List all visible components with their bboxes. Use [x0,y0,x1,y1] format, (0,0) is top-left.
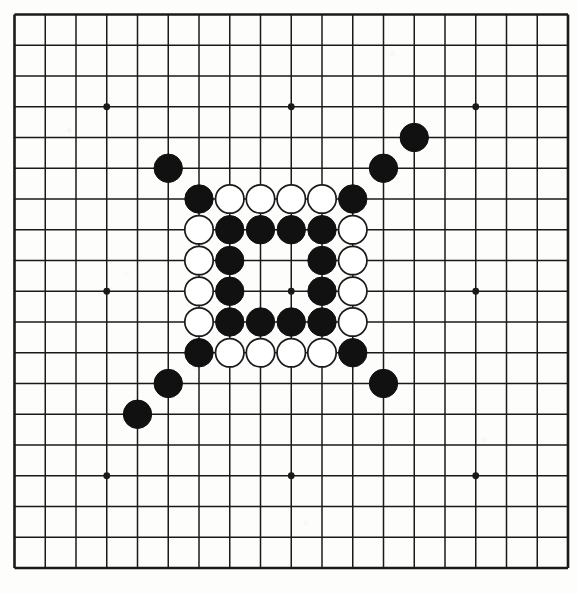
white-stone[interactable] [246,339,274,367]
white-stone[interactable] [185,277,213,305]
white-stone[interactable] [339,308,367,336]
white-stone[interactable] [277,185,305,213]
black-stone[interactable] [185,339,213,367]
black-stone[interactable] [154,154,182,182]
black-stone[interactable] [308,308,336,336]
go-board[interactable] [0,0,577,594]
go-board-figure [0,0,577,594]
black-stone[interactable] [216,277,244,305]
star-point [288,472,295,479]
white-stone[interactable] [339,216,367,244]
black-stone[interactable] [369,154,397,182]
black-stone[interactable] [308,246,336,274]
star-point [472,472,479,479]
white-stone[interactable] [339,277,367,305]
black-stone[interactable] [246,308,274,336]
black-stone[interactable] [277,308,305,336]
black-stone[interactable] [185,185,213,213]
white-stone[interactable] [308,339,336,367]
white-stone[interactable] [308,185,336,213]
black-stone[interactable] [308,277,336,305]
black-stone[interactable] [216,246,244,274]
black-stone[interactable] [123,400,151,428]
white-stone[interactable] [339,246,367,274]
star-point [103,103,110,110]
star-point [103,472,110,479]
black-stone[interactable] [400,123,428,151]
white-stone[interactable] [246,185,274,213]
star-point [103,288,110,295]
star-point [288,288,295,295]
black-stone[interactable] [216,216,244,244]
black-stone[interactable] [154,369,182,397]
black-stone[interactable] [308,216,336,244]
white-stone[interactable] [185,308,213,336]
black-stone[interactable] [369,369,397,397]
board-background [0,0,577,594]
black-stone[interactable] [277,216,305,244]
black-stone[interactable] [216,308,244,336]
star-point [288,103,295,110]
black-stone[interactable] [246,216,274,244]
white-stone[interactable] [216,185,244,213]
star-point [472,288,479,295]
black-stone[interactable] [339,185,367,213]
star-point [472,103,479,110]
white-stone[interactable] [216,339,244,367]
white-stone[interactable] [185,246,213,274]
white-stone[interactable] [185,216,213,244]
black-stone[interactable] [339,339,367,367]
white-stone[interactable] [277,339,305,367]
